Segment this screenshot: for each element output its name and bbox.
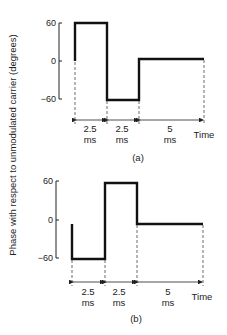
ytick-60-a: 60 [46,18,56,28]
chart-a: 60 0 −60 2.5 ms 2.5 ms 5 ms Time (a) [41,18,215,163]
interval-2-b-value: 2.5 [112,286,125,297]
chart-b: 60 0 −60 2.5 ms 2.5 ms 5 ms Time (b) [38,176,213,324]
time-label-a: Time [194,129,215,140]
y-axis-label: Phase with respect to unmodulated carrie… [7,34,18,255]
interval-2-a-value: 2.5 [115,123,128,134]
y-axis-a [59,23,62,99]
caption-a: (a) [132,152,144,163]
ytick-0-a: 0 [51,56,56,66]
interval-1-b-unit: ms [82,297,95,308]
phase-waveform-b [72,183,203,259]
interval-3-b-unit: ms [162,297,175,308]
ytick-60-b: 60 [43,176,53,186]
caption-b: (b) [130,313,142,324]
interval-1-a-value: 2.5 [83,123,96,134]
interval-1-b-value: 2.5 [81,286,94,297]
interval-3-a-value: 5 [167,123,172,134]
y-axis-b [56,181,59,258]
interval-2-a-unit: ms [116,134,129,145]
dash-lines-b [72,225,203,286]
ytick-m60-a: −60 [41,94,56,104]
interval-2-b-unit: ms [113,297,126,308]
time-label-b: Time [192,291,213,302]
interval-3-a-unit: ms [164,134,177,145]
ytick-0-b: 0 [48,215,53,225]
interval-3-b-value: 5 [165,286,170,297]
phase-waveform-a [75,23,204,100]
interval-1-a-unit: ms [84,134,97,145]
figure: Phase with respect to unmodulated carrie… [0,0,227,335]
ytick-m60-b: −60 [38,253,53,263]
